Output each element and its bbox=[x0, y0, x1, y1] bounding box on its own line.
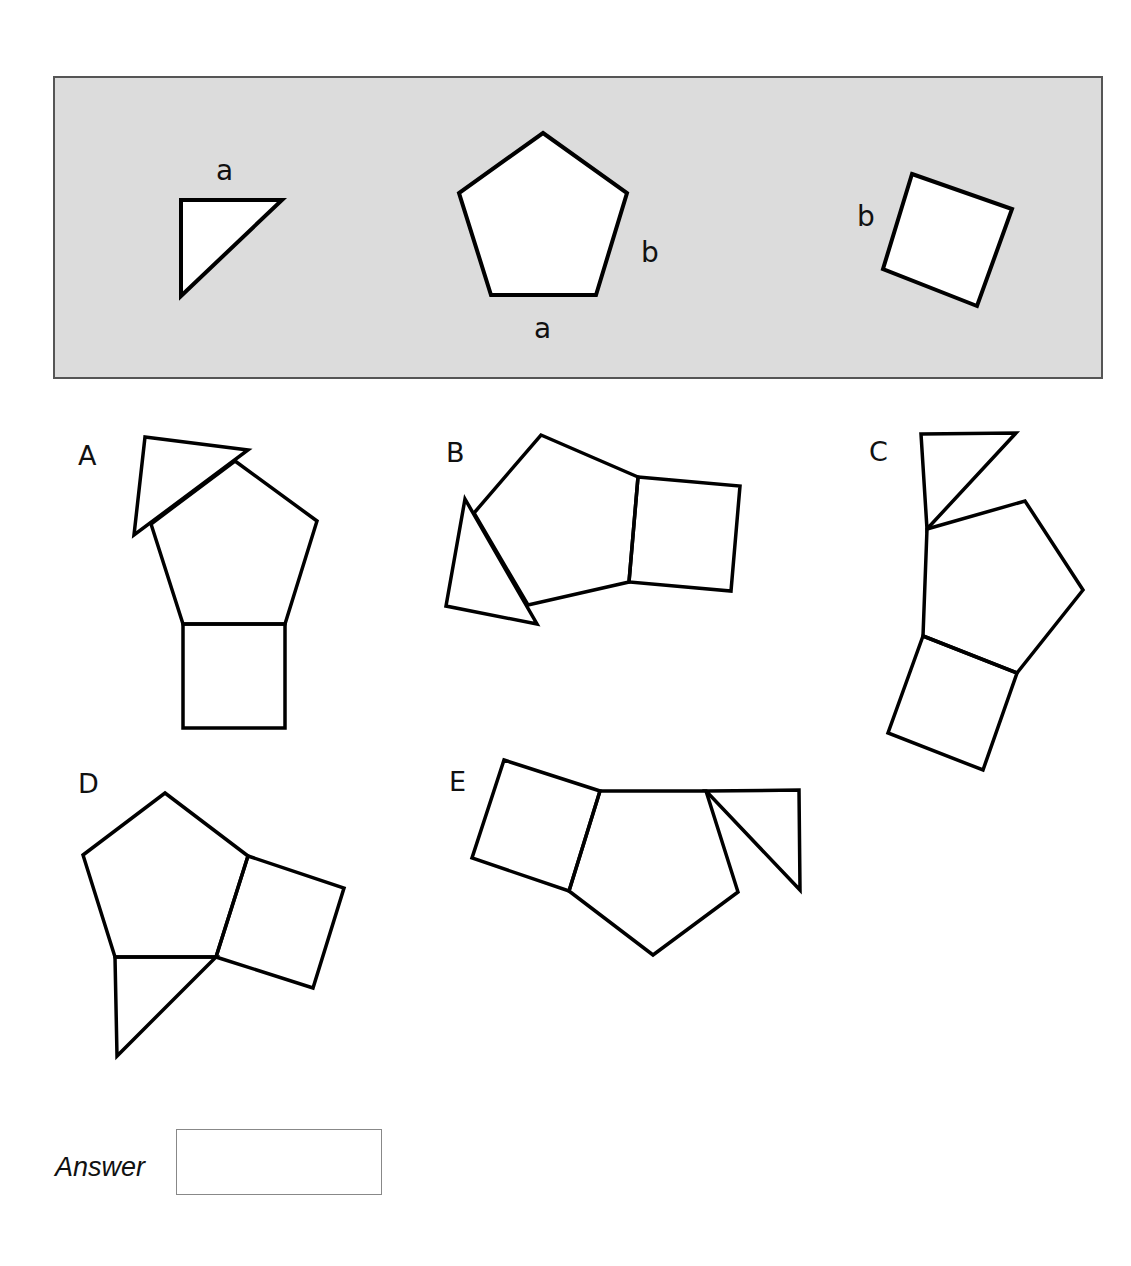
option-a-letter: A bbox=[78, 440, 97, 471]
puzzle-canvas: a b a b A B C D E bbox=[0, 0, 1131, 1266]
option-a-pentagon bbox=[151, 461, 317, 624]
option-c-square bbox=[888, 636, 1017, 770]
option-b[interactable]: B bbox=[446, 435, 740, 624]
triangle-label-a: a bbox=[216, 154, 233, 187]
option-c-letter: C bbox=[869, 436, 888, 467]
option-e-letter: E bbox=[449, 766, 466, 797]
option-d[interactable]: D bbox=[78, 768, 344, 1056]
option-e-square bbox=[472, 760, 600, 891]
option-e[interactable]: E bbox=[449, 760, 800, 955]
answer-label: Answer bbox=[55, 1152, 145, 1183]
option-a-square bbox=[183, 624, 285, 728]
reference-panel: a b a b bbox=[54, 77, 1102, 378]
option-c[interactable]: C bbox=[869, 433, 1083, 770]
pentagon-label-b: b bbox=[641, 236, 659, 269]
option-d-triangle bbox=[115, 957, 216, 1056]
option-e-pentagon bbox=[569, 791, 738, 955]
option-b-pentagon bbox=[474, 435, 638, 605]
option-d-letter: D bbox=[78, 768, 99, 799]
answer-input[interactable] bbox=[176, 1129, 382, 1195]
option-b-triangle bbox=[446, 499, 537, 624]
option-a[interactable]: A bbox=[78, 437, 317, 728]
option-b-letter: B bbox=[446, 437, 465, 468]
square-label-b: b bbox=[857, 200, 875, 233]
option-c-triangle bbox=[921, 433, 1016, 529]
option-d-square bbox=[216, 856, 344, 988]
option-a-triangle bbox=[134, 437, 248, 535]
pentagon-label-a: a bbox=[534, 312, 551, 345]
option-b-square bbox=[629, 477, 740, 591]
